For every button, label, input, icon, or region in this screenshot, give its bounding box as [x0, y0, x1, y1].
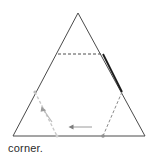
hexagon-bottom-right-vertex-dot: [101, 134, 105, 138]
hexagon-left-vertex-dot: [33, 90, 36, 93]
hexagon-lower-right-dashed-edge: [103, 92, 122, 136]
geometry-diagram: [0, 0, 157, 160]
hexagon-upper-right-bold-edge: [103, 54, 122, 92]
fold-arrow-left-corner: [41, 107, 52, 123]
outer-triangle: [13, 13, 145, 136]
hexagon-bottom-left-vertex-dot: [56, 135, 59, 138]
fold-arrow-bottom-corner: [69, 125, 93, 130]
figure-container: corner.: [0, 0, 157, 160]
caption-label: corner.: [8, 142, 43, 155]
